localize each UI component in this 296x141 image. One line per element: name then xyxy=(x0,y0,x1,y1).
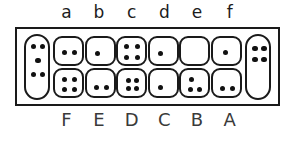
left-capsule-dot-2 xyxy=(40,44,46,50)
slot-right-capsule xyxy=(242,27,274,106)
cell-f-bottom-dot-2 xyxy=(230,86,235,91)
cell-c-bottom-dot-3 xyxy=(126,86,131,91)
cell-f-bottom-dot-1 xyxy=(220,86,225,91)
cell-d-bottom xyxy=(148,68,179,98)
bottom-label-C: C xyxy=(148,110,181,130)
right-capsule xyxy=(245,34,271,100)
left-capsule-dot-5 xyxy=(40,72,46,78)
left-capsule xyxy=(24,34,50,100)
top-label-a: a xyxy=(50,2,83,22)
cell-b-bottom-dot-2 xyxy=(104,85,109,90)
bottom-label-B: B xyxy=(181,110,214,130)
braille-cell-diagram: a b c d e f xyxy=(0,0,296,141)
cell-c-bottom-dot-4 xyxy=(134,86,139,91)
bottom-label-A: A xyxy=(213,110,246,130)
cell-d-bottom-dot-1 xyxy=(158,85,163,90)
left-capsule-dot-4 xyxy=(31,72,37,78)
cell-b-top-dot-1 xyxy=(95,51,100,56)
cell-a-top-dot-2 xyxy=(72,50,77,55)
slot-column-f xyxy=(211,27,243,106)
bottom-label-E: E xyxy=(83,110,116,130)
cell-f-top xyxy=(211,36,242,66)
slot-left-capsule xyxy=(21,27,53,106)
right-capsule-dot-3 xyxy=(252,57,258,63)
top-label-b: b xyxy=(83,2,116,22)
cell-e-bottom-dot-1 xyxy=(189,77,194,82)
right-capsule-dot-4 xyxy=(261,57,267,63)
bottom-label-F: F xyxy=(50,110,83,130)
cell-b-bottom-dot-1 xyxy=(94,85,99,90)
slot-column-e xyxy=(179,27,211,106)
cell-e-bottom xyxy=(179,68,210,98)
cell-a-bottom-dot-3 xyxy=(62,87,67,92)
slot-column-c xyxy=(116,27,148,106)
top-label-c: c xyxy=(115,2,148,22)
cell-c-bottom-dot-2 xyxy=(134,78,139,83)
cell-d-top xyxy=(148,36,179,66)
cell-d-top-dot-1 xyxy=(158,51,163,56)
cell-a-bottom-dot-1 xyxy=(62,77,67,82)
cell-c-top-dot-2 xyxy=(135,44,140,49)
cell-f-bottom xyxy=(211,68,242,98)
cell-a-top-dot-1 xyxy=(62,50,67,55)
left-capsule-dot-1 xyxy=(31,44,37,50)
cells-container xyxy=(15,27,280,106)
bottom-label-D: D xyxy=(115,110,148,130)
cell-c-top-dot-4 xyxy=(135,55,140,60)
left-capsule-dot-3 xyxy=(35,58,41,64)
cell-b-bottom xyxy=(85,68,116,98)
bottom-column-labels: F E D C B A xyxy=(50,110,246,130)
cell-e-bottom-dot-3 xyxy=(197,87,202,92)
slot-column-d xyxy=(148,27,180,106)
cell-e-top xyxy=(179,36,210,66)
slot-column-b xyxy=(84,27,116,106)
cell-c-top-dot-3 xyxy=(124,55,129,60)
cell-a-bottom xyxy=(53,68,84,98)
top-label-f: f xyxy=(213,2,246,22)
top-column-labels: a b c d e f xyxy=(50,2,246,22)
right-capsule-dot-2 xyxy=(261,46,267,52)
cell-c-bottom-dot-1 xyxy=(126,78,131,83)
cell-b-top xyxy=(85,36,116,66)
cell-f-top-dot-1 xyxy=(223,50,228,55)
top-label-d: d xyxy=(148,2,181,22)
cell-c-top xyxy=(116,36,147,66)
cell-a-top xyxy=(53,36,84,66)
slot-column-a xyxy=(53,27,85,106)
cell-c-top-dot-1 xyxy=(124,44,129,49)
cell-a-bottom-dot-2 xyxy=(72,77,77,82)
cell-c-bottom xyxy=(116,68,147,98)
top-label-e: e xyxy=(181,2,214,22)
right-capsule-dot-1 xyxy=(252,46,258,52)
cell-a-bottom-dot-4 xyxy=(72,87,77,92)
cell-e-bottom-dot-2 xyxy=(188,87,193,92)
